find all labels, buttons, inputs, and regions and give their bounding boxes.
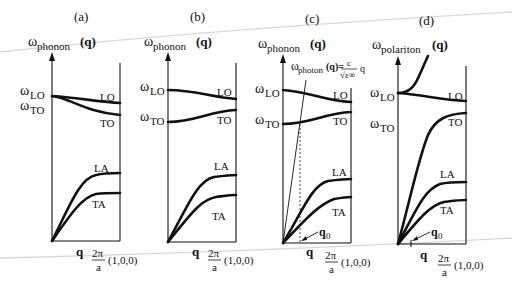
panel-c-x-axis-label: q 2π a (1,0,0) xyxy=(306,244,371,275)
svg-text:LO: LO xyxy=(265,87,280,99)
panel-a-la-branch xyxy=(52,173,120,241)
panel-d-q0-label: q 0 xyxy=(412,225,443,241)
svg-text:ω: ω xyxy=(372,37,381,52)
panel-c-ta-branch xyxy=(283,197,351,243)
panel-c-ta-label: TA xyxy=(332,206,346,218)
svg-text:2π: 2π xyxy=(325,249,337,261)
panel-a-ta-branch xyxy=(52,193,120,241)
svg-text:ω: ω xyxy=(370,116,379,131)
panel-c-photon-line xyxy=(283,80,306,243)
svg-text:LO: LO xyxy=(380,91,395,103)
svg-text:q: q xyxy=(319,225,326,239)
panel-b-omega-lo-label: ω LO xyxy=(140,79,165,97)
svg-text:c: c xyxy=(347,58,351,68)
svg-text:(q): (q) xyxy=(310,36,326,51)
svg-text:q: q xyxy=(76,244,84,259)
svg-text:2π: 2π xyxy=(92,247,104,259)
panel-b-ta-label: TA xyxy=(212,210,226,222)
svg-text:phonon: phonon xyxy=(37,40,71,52)
svg-text:ω: ω xyxy=(258,36,267,51)
svg-text:(q): (q) xyxy=(80,34,96,49)
panel-a-y-axis-title: ω phonon (q) xyxy=(28,34,96,52)
panel-c: (c) ω phonon (q) ω photon (q)= c √ε∞ q ω… xyxy=(255,11,371,275)
svg-text:ω: ω xyxy=(255,112,264,127)
svg-text:a: a xyxy=(212,261,217,273)
svg-text:0: 0 xyxy=(326,231,331,241)
svg-text:TO: TO xyxy=(150,115,165,127)
svg-text:q: q xyxy=(360,63,365,74)
svg-text:a: a xyxy=(96,261,101,273)
svg-text:ω: ω xyxy=(28,34,37,49)
panel-b-ta-branch xyxy=(168,195,236,242)
svg-text:ω: ω xyxy=(255,81,264,96)
panel-d-la-label: LA xyxy=(440,168,455,180)
panel-b-lo-label: LO xyxy=(217,86,232,98)
svg-text:a: a xyxy=(442,266,447,278)
panel-a: (a) ω phonon (q) ω LO ω TO LO TO LA TA q… xyxy=(20,9,138,273)
svg-text:0: 0 xyxy=(438,231,443,241)
panel-a-lo-label: LO xyxy=(100,91,115,103)
panel-c-to-label: TO xyxy=(333,115,348,127)
svg-text:polariton: polariton xyxy=(381,43,421,55)
svg-text:q: q xyxy=(431,225,438,239)
panel-d-omega-to-label: ω TO xyxy=(370,116,395,134)
svg-text:phonon: phonon xyxy=(153,40,187,52)
panel-b-omega-to-label: ω TO xyxy=(140,109,165,127)
svg-text:ω: ω xyxy=(20,98,29,113)
panel-b-la-branch xyxy=(168,175,236,242)
svg-text:TO: TO xyxy=(380,122,395,134)
panel-c-la-label: LA xyxy=(332,166,347,178)
panel-d-omega-lo-label: ω LO xyxy=(370,85,395,103)
panel-b-label: (b) xyxy=(190,9,205,24)
svg-text:(1,0,0): (1,0,0) xyxy=(341,256,371,269)
panel-a-to-label: TO xyxy=(100,117,115,129)
panel-b-x-axis-label: q 2π a (1,0,0) xyxy=(192,244,254,273)
panel-c-label: (c) xyxy=(305,11,319,26)
arrow-up-icon xyxy=(280,54,286,63)
panel-d-lo-label: LO xyxy=(448,90,463,102)
panel-b: (b) ω phonon (q) ω LO ω TO LO TO LA TA q… xyxy=(140,9,254,273)
arrow-up-icon xyxy=(49,52,55,61)
svg-text:q: q xyxy=(192,244,200,259)
svg-text:ω: ω xyxy=(140,109,149,124)
svg-text:a: a xyxy=(329,263,334,275)
svg-text:ω: ω xyxy=(370,85,379,100)
svg-text:(q): (q) xyxy=(432,37,448,52)
svg-text:phonon: phonon xyxy=(267,42,301,54)
svg-text:(1,0,0): (1,0,0) xyxy=(454,259,484,272)
panel-c-y-axis-title: ω phonon (q) xyxy=(258,36,326,54)
panel-d-ta-label: TA xyxy=(440,204,454,216)
svg-text:ω: ω xyxy=(140,79,149,94)
panel-a-x-axis-label: q 2π a (1,0,0) xyxy=(76,244,138,273)
svg-text:LO: LO xyxy=(150,85,165,97)
svg-text:TO: TO xyxy=(265,118,280,130)
svg-text:q: q xyxy=(306,244,314,259)
panel-d-to-label: TO xyxy=(448,116,463,128)
panel-d-y-axis-title: ω polariton (q) xyxy=(372,37,448,55)
panel-b-la-label: LA xyxy=(214,160,229,172)
arrow-up-icon xyxy=(165,52,171,61)
panel-c-q0-label: q 0 xyxy=(301,225,331,241)
panel-d-x-axis-label: q 2π a (1,0,0) xyxy=(420,247,484,278)
panel-c-omega-to-label: ω TO xyxy=(255,112,280,130)
panel-c-lo-label: LO xyxy=(333,89,348,101)
panel-a-la-label: LA xyxy=(94,162,109,174)
panel-d: (d) ω polariton (q) ω LO ω TO LO TO LA T… xyxy=(370,13,484,278)
panel-c-omega-lo-label: ω LO xyxy=(255,81,280,99)
panel-a-ta-label: TA xyxy=(92,198,106,210)
panel-c-photon-line-label: ω photon (q)= c √ε∞ q xyxy=(291,58,365,80)
svg-text:(1,0,0): (1,0,0) xyxy=(108,254,138,267)
panel-a-label: (a) xyxy=(74,9,88,24)
panel-d-upper-polariton-branch xyxy=(398,56,428,93)
svg-text:LO: LO xyxy=(30,89,45,101)
svg-text:(q): (q) xyxy=(196,34,212,49)
svg-text:TO: TO xyxy=(30,104,45,116)
svg-text:ω: ω xyxy=(144,34,153,49)
svg-text:(1,0,0): (1,0,0) xyxy=(224,254,254,267)
arrow-up-icon xyxy=(395,56,401,65)
svg-text:ω: ω xyxy=(20,83,29,98)
svg-text:photon: photon xyxy=(298,65,324,75)
svg-text:√ε∞: √ε∞ xyxy=(340,70,355,80)
svg-text:q: q xyxy=(420,247,428,262)
phonon-dispersion-figure: (a) ω phonon (q) ω LO ω TO LO TO LA TA q… xyxy=(0,0,512,293)
